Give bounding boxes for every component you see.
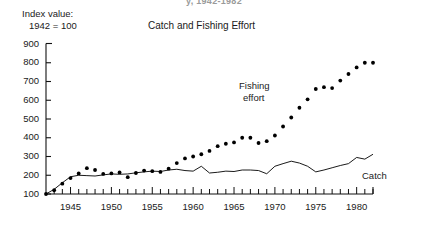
y-tick-label-100: 100 (11, 188, 39, 199)
series-catch-line (46, 154, 373, 194)
x-tick-label-1950: 1950 (91, 201, 131, 212)
y-tick-label-800: 800 (11, 56, 39, 67)
y-tick-label-900: 900 (11, 38, 39, 49)
chart-figure: y, 1942-1982 Index value: 1942 = 100 Cat… (0, 0, 421, 236)
x-tick-label-1955: 1955 (132, 201, 172, 212)
x-tick-label-1960: 1960 (173, 201, 213, 212)
x-tick-label-1965: 1965 (214, 201, 254, 212)
y-tick-label-600: 600 (11, 94, 39, 105)
y-tick-label-500: 500 (11, 113, 39, 124)
x-tick-label-1980: 1980 (337, 201, 377, 212)
y-tick-label-400: 400 (11, 131, 39, 142)
y-tick-label-700: 700 (11, 75, 39, 86)
y-tick-label-300: 300 (11, 150, 39, 161)
x-tick-label-1945: 1945 (51, 201, 91, 212)
x-tick-label-1970: 1970 (255, 201, 295, 212)
x-tick-label-1975: 1975 (296, 201, 336, 212)
y-tick-label-200: 200 (11, 169, 39, 180)
x-tick-marks (54, 187, 373, 194)
y-tick-marks (46, 63, 51, 194)
